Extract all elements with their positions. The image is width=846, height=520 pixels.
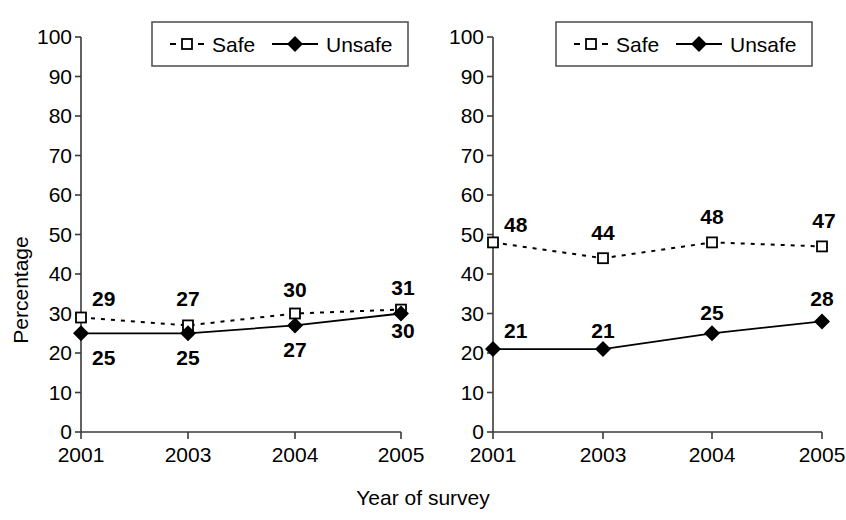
data-label-unsafe-2001-right: 21: [504, 319, 528, 342]
left-unsafe-markers: [74, 307, 408, 341]
left-unsafe-line: [81, 314, 401, 334]
y-tick-40: 40: [49, 262, 72, 285]
legend-label-unsafe: Unsafe: [326, 33, 393, 56]
data-label-safe-2003-right: 44: [591, 221, 615, 244]
legend-label-safe-right: Safe: [616, 33, 659, 56]
left-y-axis-title: Percentage: [9, 236, 32, 343]
left-safe-data-labels: 29 27 30 31: [92, 276, 415, 310]
y-tick-10: 10: [49, 381, 72, 404]
x-tick-2004: 2004: [272, 443, 319, 466]
y-tick-90: 90: [49, 65, 72, 88]
x-tick-2005-right: 2005: [799, 443, 846, 466]
left-safe-markers: [76, 305, 406, 331]
x-tick-2005: 2005: [378, 443, 425, 466]
y-tick-0: 0: [60, 420, 72, 443]
legend-label-safe: Safe: [212, 33, 255, 56]
figure-canvas: Percentage 0 10 20 30 40 50 60 70 80 90 …: [0, 0, 846, 520]
right-x-tick-labels: 2001 2003 2004 2005: [470, 443, 846, 466]
y-tick-90-right: 90: [461, 65, 484, 88]
y-tick-60: 60: [49, 183, 72, 206]
data-label-unsafe-2003-right: 21: [591, 319, 615, 342]
y-tick-80: 80: [49, 104, 72, 127]
y-tick-60-right: 60: [461, 183, 484, 206]
data-label-safe-2005-right: 47: [812, 209, 835, 232]
data-label-safe-2004: 30: [283, 278, 306, 301]
y-tick-20: 20: [49, 341, 72, 364]
x-tick-2001: 2001: [58, 443, 105, 466]
data-label-unsafe-2004-right: 25: [700, 301, 724, 324]
right-x-ticks: [493, 432, 822, 439]
right-unsafe-data-labels: 21 21 25 28: [504, 287, 834, 342]
left-x-tick-labels: 2001 2003 2004 2005: [58, 443, 425, 466]
left-y-tick-labels: 0 10 20 30 40 50 60 70 80 90 100: [37, 25, 72, 443]
right-unsafe-line: [493, 321, 822, 349]
y-tick-70: 70: [49, 144, 72, 167]
y-tick-10-right: 10: [461, 381, 484, 404]
y-tick-30-right: 30: [461, 302, 484, 325]
left-y-ticks: [75, 37, 81, 432]
right-y-tick-labels: 0 10 20 30 40 50 60 70 80 90 100: [449, 25, 484, 443]
y-tick-20-right: 20: [461, 341, 484, 364]
left-panel: Percentage 0 10 20 30 40 50 60 70 80 90 …: [9, 22, 424, 466]
y-tick-100-right: 100: [449, 25, 484, 48]
y-tick-0-right: 0: [472, 420, 484, 443]
x-tick-2003-right: 2003: [580, 443, 627, 466]
legend-label-unsafe-right: Unsafe: [730, 33, 797, 56]
y-tick-40-right: 40: [461, 262, 484, 285]
data-label-safe-2001-right: 48: [504, 213, 528, 236]
y-tick-50: 50: [49, 223, 72, 246]
data-label-safe-2004-right: 48: [700, 205, 724, 228]
data-label-safe-2001: 29: [92, 287, 115, 310]
chart-figure: Percentage 0 10 20 30 40 50 60 70 80 90 …: [0, 0, 846, 520]
data-label-unsafe-2005: 30: [391, 319, 414, 342]
data-label-unsafe-2001: 25: [92, 346, 116, 369]
left-x-ticks: [81, 432, 401, 439]
y-tick-50-right: 50: [461, 223, 484, 246]
right-safe-line: [493, 242, 822, 258]
left-legend[interactable]: Safe Unsafe: [152, 22, 408, 66]
right-y-ticks: [487, 37, 493, 432]
y-tick-100: 100: [37, 25, 72, 48]
x-axis-title: Year of survey: [356, 486, 490, 509]
data-label-safe-2003: 27: [176, 287, 199, 310]
right-safe-data-labels: 48 44 48 47: [504, 205, 836, 244]
right-legend[interactable]: Safe Unsafe: [556, 22, 812, 66]
data-label-unsafe-2004: 27: [283, 338, 306, 361]
y-tick-70-right: 70: [461, 144, 484, 167]
left-safe-line: [81, 310, 401, 326]
data-label-safe-2005: 31: [391, 276, 415, 299]
y-tick-30: 30: [49, 302, 72, 325]
x-tick-2003: 2003: [165, 443, 212, 466]
x-tick-2004-right: 2004: [689, 443, 736, 466]
right-safe-markers: [488, 237, 827, 263]
y-tick-80-right: 80: [461, 104, 484, 127]
x-tick-2001-right: 2001: [470, 443, 517, 466]
data-label-unsafe-2003: 25: [176, 346, 200, 369]
data-label-unsafe-2005-right: 28: [810, 287, 834, 310]
right-panel: 0 10 20 30 40 50 60 70 80 90 100: [449, 22, 845, 466]
left-unsafe-data-labels: 25 25 27 30: [92, 319, 415, 369]
